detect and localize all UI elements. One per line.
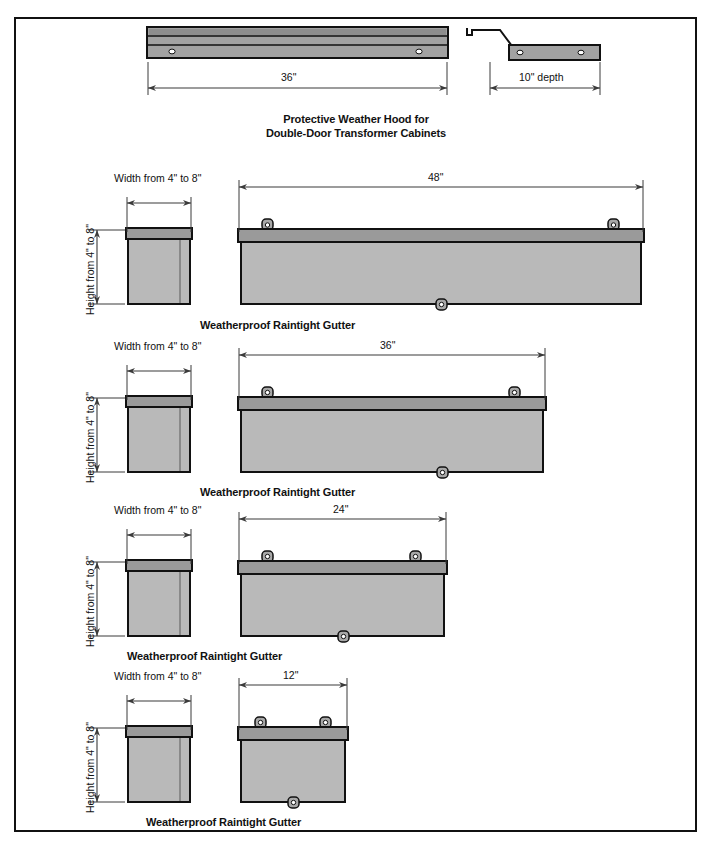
gutter-36-front-view	[238, 387, 546, 478]
hood-front-dimension-label: 36"	[281, 71, 296, 83]
gutter-24-height-label: Height from 4" to 8"	[84, 556, 96, 647]
gutter-24-width-label: Width from 4" to 8"	[114, 504, 201, 516]
gutter-48-width-dimension	[127, 197, 191, 232]
gutter-12-front-view	[238, 717, 348, 808]
gutter-48-length-label: 48"	[428, 171, 443, 183]
gutter-36-height-label: Height from 4" to 8"	[84, 392, 96, 483]
mount-tab	[436, 299, 447, 310]
mount-tab	[338, 631, 349, 642]
gutter-36-length-label: 36"	[380, 339, 395, 351]
gutter-24-width-dimension	[127, 529, 191, 564]
weather-hood-front-dimension	[148, 62, 447, 95]
gutter-36-length-dimension	[239, 348, 545, 400]
gutter-48-width-label: Width from 4" to 8"	[114, 172, 201, 184]
gutter-36-width-dimension	[127, 365, 191, 400]
gutter-12-length-label: 12"	[283, 669, 298, 681]
gutter-36-side-view	[126, 396, 192, 472]
gutter-12-height-label: Height from 4" to 8"	[84, 722, 96, 813]
hood-caption-line2: Double-Door Transformer Cabinets	[186, 126, 526, 140]
weather-hood-side-view	[467, 28, 600, 60]
hood-caption-line1: Protective Weather Hood for	[186, 112, 526, 126]
gutter-12-width-dimension	[127, 695, 191, 730]
gutter-12-caption: Weatherproof Raintight Gutter	[146, 815, 626, 829]
gutter-24-side-view	[126, 560, 192, 636]
weather-hood-front-view	[147, 27, 448, 58]
gutter-48-front-view	[238, 219, 644, 310]
gutter-48-caption: Weatherproof Raintight Gutter	[200, 318, 680, 332]
hood-side-dimension-label: 10" depth	[519, 71, 564, 83]
gutter-48-side-view	[126, 228, 192, 304]
gutter-24-front-view	[238, 551, 447, 642]
drawing-sheet: 36" 10" depth Protective Weather Hood fo…	[0, 0, 711, 850]
gutter-12-width-label: Width from 4" to 8"	[114, 670, 201, 682]
gutter-48-length-dimension	[239, 180, 643, 232]
mount-tab	[288, 797, 299, 808]
gutter-24-length-label: 24"	[333, 503, 348, 515]
mount-tab	[437, 467, 448, 478]
gutter-36-width-label: Width from 4" to 8"	[114, 340, 201, 352]
gutter-24-caption: Weatherproof Raintight Gutter	[127, 649, 607, 663]
gutter-36-caption: Weatherproof Raintight Gutter	[200, 485, 680, 499]
gutter-48-height-label: Height from 4" to 8"	[84, 224, 96, 315]
gutter-12-side-view	[126, 726, 192, 802]
